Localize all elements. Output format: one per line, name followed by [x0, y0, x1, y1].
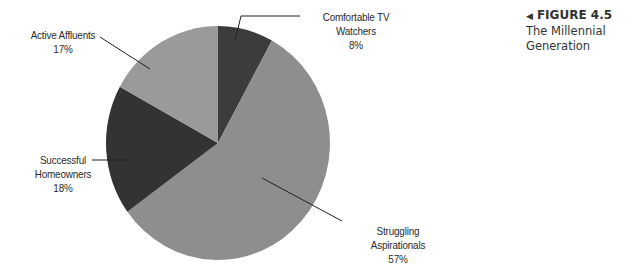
pie-slices [106, 26, 330, 260]
figure-label-row: ◀FIGURE 4.5 [526, 8, 635, 24]
caret-left-icon: ◀ [526, 11, 533, 21]
label-active-name: Active Affluents [24, 28, 101, 42]
label-struggling-aspirationals: Struggling Aspirationals 57% [350, 224, 446, 266]
label-successful-homeowners: Successful Homeowners 18% [33, 153, 93, 195]
label-comfortable-name: Comfortable TV Watchers [308, 10, 404, 38]
label-struggling-name: Struggling Aspirationals [350, 224, 446, 252]
label-active-affluents: Active Affluents 17% [24, 28, 101, 56]
label-successful-line1: Successful [33, 153, 93, 167]
label-successful-line2: Homeowners [33, 167, 93, 181]
leader-active [100, 37, 150, 69]
label-struggling-pct: 57% [350, 252, 446, 266]
figure-label: FIGURE 4.5 [537, 8, 612, 22]
label-comfortable-pct: 8% [308, 38, 404, 52]
figure-caption: ◀FIGURE 4.5 The Millennial Generation [526, 8, 635, 54]
figure-title: The Millennial Generation [526, 24, 635, 54]
label-active-pct: 17% [24, 42, 101, 56]
label-comfortable-tv-watchers: Comfortable TV Watchers 8% [308, 10, 404, 52]
label-successful-pct: 18% [33, 181, 93, 195]
